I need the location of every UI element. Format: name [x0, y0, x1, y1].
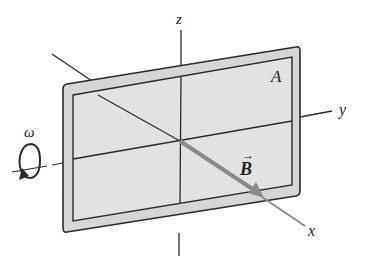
x-axis-label: x [307, 222, 315, 239]
rotation-axis-left-2 [52, 163, 63, 165]
x-axis-front [262, 197, 305, 226]
field-vector-arrow-glyph: → [242, 148, 254, 162]
rotating-loop-diagram: z y x A B → ω [0, 0, 366, 272]
field-label: B [239, 159, 252, 179]
rotation-axis-left [12, 166, 47, 172]
angular-velocity-label: ω [24, 124, 35, 140]
x-axis-back [52, 54, 92, 81]
y-axis-right [300, 111, 332, 117]
z-axis-label: z [175, 11, 182, 27]
area-label: A [270, 67, 282, 86]
y-axis-label: y [337, 101, 347, 119]
